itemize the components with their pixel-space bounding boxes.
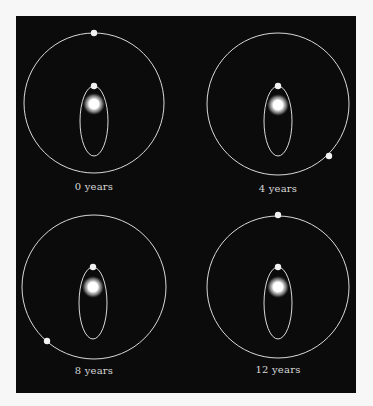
panel-label-1: 4 years xyxy=(218,183,338,194)
orbit-diagram xyxy=(0,0,373,406)
star xyxy=(89,99,99,109)
panel-2 xyxy=(22,215,166,359)
star xyxy=(273,282,283,292)
inner-body xyxy=(275,83,281,89)
outer-body xyxy=(91,30,97,36)
outer-body xyxy=(44,338,50,344)
inner-body xyxy=(275,264,281,270)
panel-label-2: 8 years xyxy=(34,365,154,376)
outer-body xyxy=(326,153,332,159)
panels-group xyxy=(22,30,349,359)
inner-body xyxy=(91,83,97,89)
inner-body xyxy=(90,264,96,270)
star xyxy=(273,100,283,110)
panel-label-3: 12 years xyxy=(218,364,338,375)
panel-label-0: 0 years xyxy=(34,181,154,192)
panel-1 xyxy=(207,33,349,175)
outer-body xyxy=(275,212,281,218)
panel-3 xyxy=(207,212,349,358)
star xyxy=(88,282,98,292)
panel-0 xyxy=(24,30,164,173)
